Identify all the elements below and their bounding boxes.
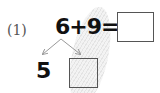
decomposition-answer-box[interactable] [69,58,98,88]
decomposition-known-part: 5 [36,58,51,83]
